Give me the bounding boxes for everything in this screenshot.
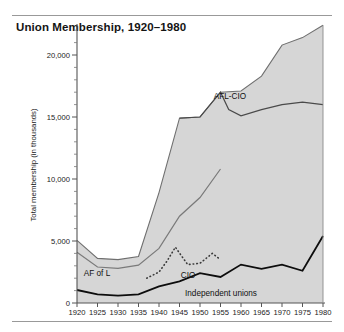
x-axis-tick-labels: 1920 1925 1930 1935 1940 1945 1950 1955 … [69, 308, 332, 317]
y-tick-label: 0 [66, 299, 70, 308]
x-tick-label: 1975 [294, 308, 311, 317]
x-tick-label: 1950 [192, 308, 209, 317]
y-tick-label: 5,000 [51, 237, 70, 246]
series-label-independent-unions: Independent unions [185, 289, 257, 298]
x-tick-label: 1945 [171, 308, 188, 317]
x-tick-label: 1960 [233, 308, 250, 317]
x-tick-label: 1965 [253, 308, 270, 317]
x-axis-ticks [77, 303, 323, 307]
y-axis-tick-labels: 0 5,000 10,000 15,000 20,000 [47, 51, 70, 308]
chart-figure: Union Membership, 1920–1980 [0, 0, 344, 332]
series-label-af-of-l: AF of L [84, 269, 111, 278]
chart-plot-area: 0 5,000 10,000 15,000 20,000 1920 1925 1… [0, 0, 344, 332]
x-tick-label: 1925 [89, 308, 106, 317]
series-label-cio: CIO [181, 271, 196, 280]
y-tick-label: 15,000 [47, 113, 70, 122]
y-tick-label: 20,000 [47, 51, 70, 60]
x-tick-label: 1970 [274, 308, 291, 317]
series-label-afl-cio: AFL-CIO [214, 92, 246, 101]
y-tick-label: 10,000 [47, 175, 70, 184]
x-tick-label: 1980 [315, 308, 332, 317]
x-tick-label: 1920 [69, 308, 86, 317]
total-membership-area [77, 25, 323, 303]
x-tick-label: 1955 [212, 308, 229, 317]
bottom-divider-rule [12, 321, 332, 322]
x-tick-label: 1940 [151, 308, 168, 317]
y-axis-title: Total membership (in thousands) [29, 108, 38, 222]
x-tick-label: 1930 [110, 308, 127, 317]
x-tick-label: 1935 [130, 308, 147, 317]
